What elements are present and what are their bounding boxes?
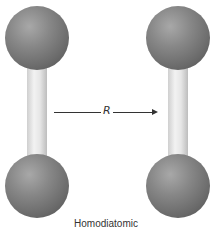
left-bottom-atom bbox=[5, 154, 69, 218]
right-top-atom bbox=[146, 6, 210, 70]
figure-caption: Homodiatomic bbox=[0, 218, 212, 229]
right-bottom-atom bbox=[146, 154, 210, 218]
diagram: R Homodiatomic bbox=[0, 0, 212, 232]
arrow-head-icon bbox=[152, 109, 158, 115]
distance-label: R bbox=[101, 105, 113, 117]
left-top-atom bbox=[5, 6, 69, 70]
